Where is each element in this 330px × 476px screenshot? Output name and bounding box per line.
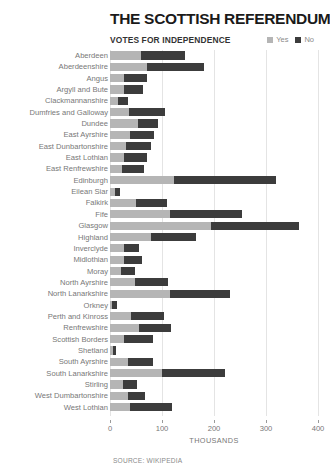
bar-segment-yes bbox=[110, 290, 170, 298]
bar-track bbox=[110, 267, 318, 275]
bar-track bbox=[110, 176, 318, 184]
bar-row: East Ayrshire bbox=[0, 129, 320, 140]
category-label: Edinburgh bbox=[4, 175, 108, 186]
category-label: West Dumbartonshire bbox=[4, 390, 108, 401]
source-note: SOURCE: WIKIPEDIA bbox=[113, 457, 182, 464]
bar-segment-yes bbox=[110, 210, 170, 218]
bar-segment-yes bbox=[110, 312, 131, 320]
bar-segment-no bbox=[124, 153, 147, 161]
bar-row: Scottish Borders bbox=[0, 334, 320, 345]
bar-track bbox=[110, 290, 318, 298]
legend-item-yes: Yes bbox=[267, 36, 288, 44]
bar-track bbox=[110, 369, 318, 377]
bar-segment-no bbox=[135, 278, 168, 286]
bar-segment-yes bbox=[110, 233, 151, 241]
category-label: East Renfrewshire bbox=[4, 163, 108, 174]
bar-segment-no bbox=[124, 85, 143, 93]
bar-track bbox=[110, 380, 318, 388]
bar-segment-yes bbox=[110, 335, 124, 343]
category-label: Inverclyde bbox=[4, 243, 108, 254]
bar-segment-no bbox=[211, 222, 299, 230]
bar-segment-no bbox=[162, 369, 225, 377]
category-label: Renfrewshire bbox=[4, 322, 108, 333]
category-label: Perth and Kinross bbox=[4, 311, 108, 322]
bar-segment-no bbox=[122, 165, 143, 173]
category-label: Glasgow bbox=[4, 220, 108, 231]
bar-row: North Ayrshire bbox=[0, 277, 320, 288]
bar-segment-yes bbox=[110, 85, 124, 93]
bar-segment-yes bbox=[110, 199, 136, 207]
bar-segment-no bbox=[130, 131, 153, 139]
axis-tick bbox=[214, 420, 215, 423]
category-label: Fife bbox=[4, 209, 108, 220]
bar-segment-yes bbox=[110, 131, 130, 139]
category-label: North Ayrshire bbox=[4, 277, 108, 288]
bar-segment-yes bbox=[110, 380, 123, 388]
bar-row: Dundee bbox=[0, 118, 320, 129]
bar-track bbox=[110, 97, 318, 105]
bar-segment-yes bbox=[110, 165, 122, 173]
bar-row: Argyll and Bute bbox=[0, 84, 320, 95]
category-label: East Lothian bbox=[4, 152, 108, 163]
category-label: Midlothian bbox=[4, 254, 108, 265]
category-label: West Lothian bbox=[4, 402, 108, 413]
bar-segment-no bbox=[128, 392, 146, 400]
bar-track bbox=[110, 346, 318, 354]
bar-track bbox=[110, 119, 318, 127]
bar-segment-yes bbox=[110, 153, 124, 161]
bar-segment-no bbox=[128, 358, 153, 366]
bar-row: North Lanarkshire bbox=[0, 288, 320, 299]
bar-track bbox=[110, 324, 318, 332]
subtitle-row: VOTES FOR INDEPENDENCE YesNo bbox=[110, 35, 316, 47]
bar-track bbox=[110, 403, 318, 411]
category-label: South Ayrshire bbox=[4, 356, 108, 367]
category-label: Stirling bbox=[4, 379, 108, 390]
category-label: Shetland bbox=[4, 345, 108, 356]
bar-track bbox=[110, 153, 318, 161]
bar-track bbox=[110, 74, 318, 82]
bar-segment-no bbox=[170, 290, 230, 298]
category-label: South Lanarkshire bbox=[4, 368, 108, 379]
bar-row: Clackmannanshire bbox=[0, 95, 320, 106]
bar-track bbox=[110, 358, 318, 366]
category-label: Clackmannanshire bbox=[4, 95, 108, 106]
bar-segment-yes bbox=[110, 51, 141, 59]
bar-rows: AberdeenAberdeenshireAngusArgyll and But… bbox=[0, 50, 320, 413]
bar-segment-yes bbox=[110, 119, 138, 127]
bar-segment-no bbox=[131, 312, 163, 320]
bar-track bbox=[110, 278, 318, 286]
bar-segment-yes bbox=[110, 392, 128, 400]
bar-row: Highland bbox=[0, 232, 320, 243]
bar-row: Orkney bbox=[0, 300, 320, 311]
axis-tick-label: 100 bbox=[156, 424, 169, 433]
bar-segment-no bbox=[136, 199, 167, 207]
category-label: Angus bbox=[4, 73, 108, 84]
bar-segment-yes bbox=[110, 142, 126, 150]
bar-row: Fife bbox=[0, 209, 320, 220]
page-title: THE SCOTTISH REFERENDUM bbox=[110, 11, 315, 27]
bar-track bbox=[110, 85, 318, 93]
bar-segment-yes bbox=[110, 63, 147, 71]
bar-track bbox=[110, 312, 318, 320]
bar-row: East Lothian bbox=[0, 152, 320, 163]
bar-segment-yes bbox=[110, 267, 121, 275]
bar-segment-no bbox=[126, 142, 151, 150]
bar-segment-yes bbox=[110, 222, 211, 230]
category-label: Dundee bbox=[4, 118, 108, 129]
bar-segment-yes bbox=[110, 74, 124, 82]
bar-segment-no bbox=[121, 267, 136, 275]
bar-segment-no bbox=[113, 346, 116, 354]
plot-area: AberdeenAberdeenshireAngusArgyll and But… bbox=[0, 50, 320, 422]
bar-row: Inverclyde bbox=[0, 243, 320, 254]
bar-track bbox=[110, 188, 318, 196]
bar-segment-yes bbox=[110, 244, 124, 252]
legend-item-no: No bbox=[295, 36, 314, 44]
bar-segment-no bbox=[115, 188, 120, 196]
bar-track bbox=[110, 222, 318, 230]
bar-track bbox=[110, 51, 318, 59]
category-label: Falkirk bbox=[4, 197, 108, 208]
category-label: Aberdeenshire bbox=[4, 61, 108, 72]
bar-track bbox=[110, 392, 318, 400]
legend-label: No bbox=[304, 36, 314, 44]
